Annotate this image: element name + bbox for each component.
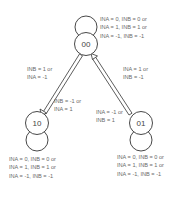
edge-00-10-label: INB = 1 or INA = -1 (27, 65, 52, 82)
node-01-label: 01 (137, 119, 146, 128)
edge-00-01-label: INA = 1 or INB = -1 (123, 65, 148, 82)
condition-line: INA = -1 or (96, 108, 123, 116)
condition-line: INA = 1 or (123, 65, 148, 73)
condition-line: INA = 1, INB = 1 or (117, 161, 164, 169)
node-00[interactable]: 00 (75, 33, 98, 56)
node-10[interactable]: 10 (26, 112, 49, 135)
condition-line: INB = -1 or (54, 97, 81, 105)
edge-arrow-01-00 (91, 54, 132, 116)
condition-line: INB = -1 (123, 73, 148, 81)
condition-line: INA = -1 (27, 73, 52, 81)
self-loop-01-label: INA = 0, INB = 0 or INA = 1, INB = 1 or … (117, 153, 164, 178)
self-loop-00-label: INA = 0, INB = 0 or INA = 1, INB = 1 or … (100, 15, 147, 40)
condition-line: INA = -1, INB = -1 (117, 170, 164, 178)
condition-line: INA = 0, INB = 0 or (9, 155, 56, 163)
condition-line: INB = 1 (96, 116, 123, 124)
condition-line: INA = 0, INB = 0 or (100, 15, 147, 23)
condition-line: INA = -1, INB = -1 (100, 32, 147, 40)
condition-line: INA = 1 (54, 105, 81, 113)
condition-line: INA = -1, INB = -1 (9, 172, 56, 180)
condition-line: INA = 1, INB = 1 or (100, 23, 147, 31)
node-00-label: 00 (82, 40, 91, 49)
self-loop-10-label: INA = 0, INB = 0 or INA = 1, INB = 1 or … (9, 155, 56, 180)
node-01[interactable]: 01 (130, 112, 153, 135)
condition-line: INA = 1, INB = 1 or (9, 163, 56, 171)
edge-01-00-label: INA = -1 or INB = 1 (96, 108, 123, 125)
edge-10-00-label: INB = -1 or INA = 1 (54, 97, 81, 114)
condition-line: INA = 0, INB = 0 or (117, 153, 164, 161)
node-10-label: 10 (33, 119, 42, 128)
condition-line: INB = 1 or (27, 65, 52, 73)
